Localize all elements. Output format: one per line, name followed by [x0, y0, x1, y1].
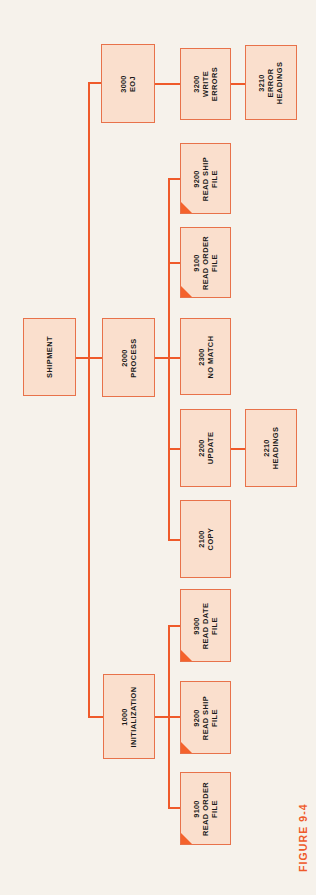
connector-eoj-to-3200	[155, 83, 181, 85]
connector-w-to-3210	[231, 83, 246, 85]
connector-trunk-to-2000	[76, 357, 103, 359]
module-name-line1: INITIALIZATION	[129, 686, 138, 747]
module-number: 3200	[192, 67, 201, 101]
module-box-b9200p: 9200READ SHIPFILE	[180, 143, 231, 214]
module-name-line2: FILE	[210, 695, 219, 739]
module-label: 9300READ DATEFILE	[192, 602, 220, 649]
module-number: 1000	[120, 686, 129, 747]
module-name-line1: READ DATE	[201, 602, 210, 649]
module-number: 9200	[192, 156, 201, 200]
module-name-line1: PROCESS	[129, 338, 138, 377]
module-name-line1: COPY	[206, 528, 215, 551]
predefined-process-corner-icon	[181, 650, 192, 661]
module-name-line1: HEADINGS	[271, 427, 280, 470]
predefined-process-corner-icon	[181, 742, 192, 753]
module-name-line2: HEADINGS	[276, 61, 285, 104]
module-box-b2000: 2000PROCESS	[102, 318, 155, 397]
module-label: 9100READ ORDERFILE	[192, 781, 220, 835]
module-name-line2: ERRORS	[210, 67, 219, 101]
predefined-process-corner-icon	[181, 833, 192, 844]
module-box-b1000: 1000INITIALIZATION	[103, 674, 155, 759]
module-number: 9200	[192, 695, 201, 739]
connector-trunk-to-1000	[88, 716, 104, 718]
module-number: 3210	[257, 61, 266, 104]
module-box-b2300: 2300NO MATCH	[180, 318, 231, 395]
predefined-process-corner-icon	[181, 202, 192, 213]
module-box-b3210: 3210ERRORHEADINGS	[245, 45, 297, 120]
module-name-line2: FILE	[210, 156, 219, 200]
module-box-b2200: 2200UPDATE	[180, 409, 231, 487]
connector-upd-to-2210	[231, 448, 246, 450]
module-number: 2000	[119, 338, 128, 377]
module-name-line2: FILE	[210, 235, 219, 289]
module-number: 3000	[119, 75, 128, 92]
module-label: 9200READ SHIPFILE	[192, 156, 220, 200]
module-name-line1: READ ORDER	[201, 235, 210, 289]
module-name-line1: NO MATCH	[206, 335, 215, 378]
module-name-line1: SHIPMENT	[45, 336, 54, 378]
module-number: 9100	[192, 235, 201, 289]
module-label: 2210HEADINGS	[262, 427, 280, 470]
module-number: 2200	[196, 432, 205, 465]
predefined-process-corner-icon	[181, 286, 192, 297]
module-name-line1: READ ORDER	[201, 781, 210, 835]
module-label: 2300NO MATCH	[196, 335, 214, 378]
module-name-line1: READ SHIP	[201, 695, 210, 739]
module-name-line2: FILE	[210, 781, 219, 835]
module-label: 3000EOJ	[119, 75, 137, 92]
module-label: SHIPMENT	[45, 336, 54, 378]
module-name-line1: WRITE	[201, 67, 210, 101]
module-box-b3000: 3000EOJ	[101, 44, 155, 123]
connector-trunk-to-3000	[88, 82, 102, 84]
module-name-line2: FILE	[210, 602, 219, 649]
module-box-b9100i: 9100READ ORDERFILE	[180, 772, 231, 845]
module-name-line1: EOJ	[128, 75, 137, 92]
module-number: 2210	[262, 427, 271, 470]
module-box-b9200i: 9200READ SHIPFILE	[180, 681, 231, 754]
figure-canvas: SHIPMENT3000EOJ2000PROCESS1000INITIALIZA…	[0, 0, 316, 895]
module-number: 9300	[192, 602, 201, 649]
module-box-b9300i: 9300READ DATEFILE	[180, 589, 231, 662]
module-name-line1: UPDATE	[206, 432, 215, 465]
module-label: 2000PROCESS	[119, 338, 137, 377]
module-number: 9100	[192, 781, 201, 835]
module-label: 9100READ ORDERFILE	[192, 235, 220, 289]
module-label: 2200UPDATE	[196, 432, 214, 465]
module-label: 1000INITIALIZATION	[120, 686, 138, 747]
module-name-line1: ERROR	[266, 61, 275, 104]
module-box-b2210: 2210HEADINGS	[245, 409, 297, 487]
connector-trunk-main	[88, 82, 90, 718]
module-box-b3200: 3200WRITEERRORS	[180, 48, 231, 120]
module-number: 2300	[196, 335, 205, 378]
module-box-b2100: 2100COPY	[180, 500, 231, 578]
module-label: 3200WRITEERRORS	[192, 67, 220, 101]
module-box-shipment: SHIPMENT	[23, 318, 76, 396]
module-name-line1: READ SHIP	[201, 156, 210, 200]
module-box-b9100p: 9100READ ORDERFILE	[180, 227, 231, 298]
module-label: 9200READ SHIPFILE	[192, 695, 220, 739]
module-label: 3210ERRORHEADINGS	[257, 61, 285, 104]
module-label: 2100COPY	[196, 528, 214, 551]
figure-caption: FIGURE 9-4	[297, 803, 309, 872]
module-number: 2100	[196, 528, 205, 551]
